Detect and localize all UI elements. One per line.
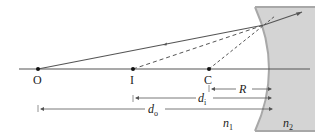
diagram-canvas: O I C R di do n1 n2 bbox=[0, 0, 332, 140]
label-n1: n1 bbox=[223, 116, 233, 132]
object-point-O bbox=[36, 67, 40, 71]
label-do: do bbox=[148, 102, 158, 118]
refraction-diagram: O I C R di do n1 n2 bbox=[0, 0, 332, 140]
label-C: C bbox=[204, 73, 212, 87]
incident-ray bbox=[38, 25, 264, 69]
label-O: O bbox=[33, 73, 42, 87]
label-R: R bbox=[238, 82, 247, 96]
label-di: di bbox=[198, 91, 207, 107]
center-point-C bbox=[207, 67, 211, 71]
label-I: I bbox=[130, 73, 134, 87]
radius-line bbox=[209, 25, 264, 69]
image-point-I bbox=[131, 67, 135, 71]
